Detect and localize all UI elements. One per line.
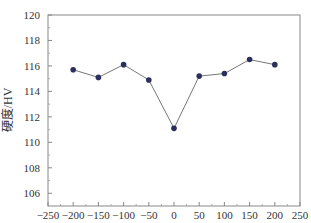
y-tick-label: 106 — [24, 187, 41, 199]
x-tick-label: −250 — [37, 209, 60, 221]
x-tick-label: 50 — [194, 209, 206, 221]
data-point — [272, 62, 278, 68]
x-tick-label: 250 — [292, 209, 309, 221]
y-tick-label: 112 — [24, 111, 40, 123]
y-tick-label: 114 — [24, 85, 41, 97]
data-point — [247, 57, 253, 63]
data-point — [171, 126, 177, 132]
y-tick-label: 108 — [24, 162, 41, 174]
y-tick-label: 120 — [24, 9, 41, 21]
y-tick-label: 110 — [24, 136, 41, 148]
x-tick-label: 200 — [267, 209, 284, 221]
y-tick-label: 116 — [24, 60, 41, 72]
y-axis-label: 硬度/HV — [0, 87, 15, 132]
x-tick-label: 100 — [216, 209, 233, 221]
data-point — [146, 77, 152, 83]
x-tick-label: −50 — [140, 209, 158, 221]
data-point — [96, 75, 102, 81]
data-point — [121, 62, 127, 68]
x-tick-label: 0 — [171, 209, 177, 221]
x-tick-label: −100 — [112, 209, 135, 221]
x-tick-label: 150 — [241, 209, 258, 221]
x-tick-label: −150 — [87, 209, 110, 221]
data-point — [70, 67, 76, 73]
data-point — [222, 71, 228, 77]
x-tick-label: −200 — [62, 209, 85, 221]
hardness-chart: 106108110112114116118120 −250−200−150−10… — [0, 0, 311, 223]
data-point — [196, 73, 202, 79]
y-tick-label: 118 — [24, 34, 41, 46]
plot-frame — [48, 15, 300, 206]
series-line — [73, 60, 275, 129]
